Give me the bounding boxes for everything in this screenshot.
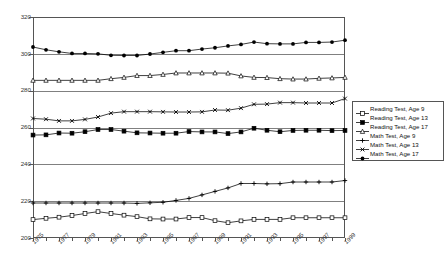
series-5 <box>31 38 347 57</box>
legend-marker-icon <box>355 113 370 122</box>
legend-item[interactable]: Math Test, Age 9 <box>355 131 441 140</box>
series-0 <box>31 210 347 225</box>
legend-marker-icon <box>355 149 370 158</box>
legend-item[interactable]: Reading Test, Age 17 <box>355 122 441 131</box>
legend-item-label: Reading Test, Age 13 <box>370 113 428 122</box>
legend-marker-icon <box>355 140 370 149</box>
legend-item-label: Math Test, Age 9 <box>370 131 415 140</box>
legend-item-label: Math Test, Age 13 <box>370 140 419 149</box>
chart-container: 320300280260240220200 197519771979198119… <box>0 0 447 273</box>
series-4 <box>31 97 347 123</box>
series-1 <box>31 126 347 137</box>
series-2 <box>31 71 347 83</box>
legend-marker-icon <box>355 104 370 113</box>
chart-legend: Reading Test, Age 9Reading Test, Age 13R… <box>352 101 444 161</box>
legend-item-label: Reading Test, Age 9 <box>370 104 424 113</box>
legend-item-label: Reading Test, Age 17 <box>370 122 428 131</box>
legend-marker-icon <box>355 131 370 140</box>
series-3 <box>31 178 347 205</box>
legend-marker-icon <box>355 122 370 131</box>
legend-item[interactable]: Reading Test, Age 13 <box>355 113 441 122</box>
legend-item-label: Math Test, Age 17 <box>370 149 419 158</box>
legend-item[interactable]: Math Test, Age 17 <box>355 149 441 158</box>
legend-item[interactable]: Math Test, Age 13 <box>355 140 441 149</box>
legend-item[interactable]: Reading Test, Age 9 <box>355 104 441 113</box>
